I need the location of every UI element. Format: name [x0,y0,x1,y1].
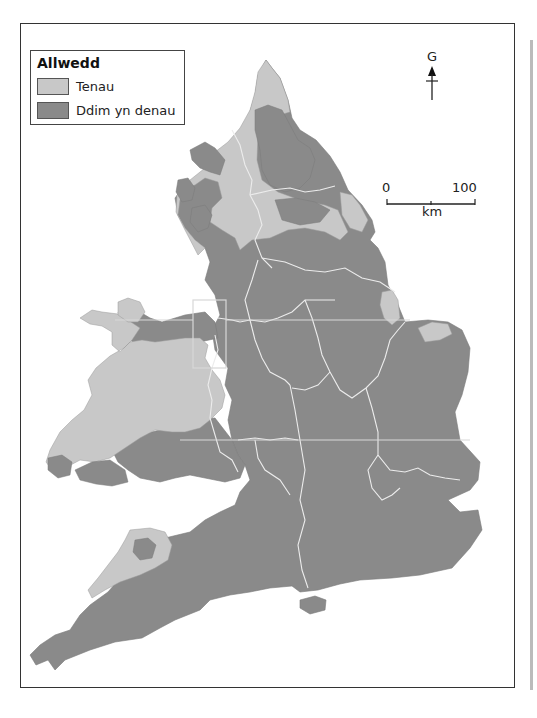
north-arrow: G [422,50,442,106]
north-arrow-icon [422,64,442,102]
scale-unit-label: km [422,204,442,219]
legend-item-thin: Tenau [37,74,178,98]
legend-swatch-not-thin [37,102,69,119]
scale-bar: 0 100 km [382,180,482,225]
legend-label-thin: Tenau [76,79,114,94]
legend-swatch-thin [37,78,69,95]
north-label: G [422,50,442,64]
legend-label-not-thin: Ddim yn denau [76,103,175,118]
legend-title: Allwedd [37,55,178,72]
legend-item-not-thin: Ddim yn denau [37,98,178,122]
map-legend: Allwedd Tenau Ddim yn denau [30,50,185,125]
